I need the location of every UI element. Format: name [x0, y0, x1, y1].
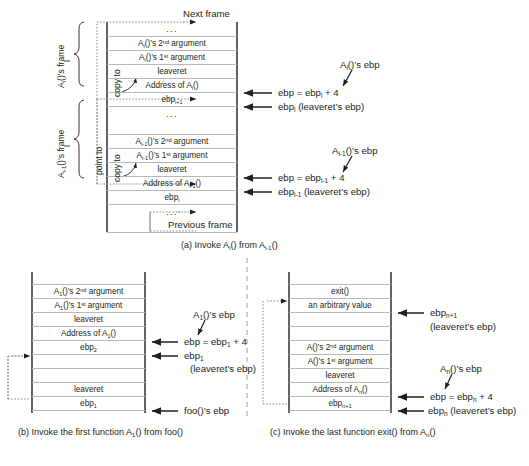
panel-b-pointer-arrows: [152, 342, 178, 411]
panel-a-upper-pointer-arrows: [244, 93, 272, 107]
stack-row: A()’s 1st argument: [289, 354, 391, 369]
stack-row: Address of An(): [289, 382, 391, 397]
stack-row: [32, 410, 145, 425]
panel-c-pointer-arrows: [398, 313, 424, 411]
stack-row: ...: [107, 106, 237, 121]
stack-row: [289, 326, 391, 341]
panel-c-arrow-top-sub-label: (leaveret’s ebp): [430, 322, 496, 332]
frame-brace-lower: [74, 100, 84, 178]
panel-c-arrow2-label: ebpn (leaveret’s ebp): [428, 406, 516, 416]
panel-c-callout-arrow: [445, 374, 452, 389]
stack-row: [289, 312, 391, 327]
panel-c-callout: An()’s ebp: [440, 364, 482, 374]
panel-a-lower-callout-arrow: [343, 156, 352, 172]
panel-c-arrow-top-label: ebpn+1: [430, 308, 457, 318]
panel-a-lower-arrow2-label: ebpi-1 (leaveret’s ebp): [278, 187, 370, 197]
panel-b-loop-connector: [8, 356, 30, 399]
panel-a-caption: (a) Invoke Ai() from Ai-1(): [181, 240, 278, 250]
stack-row: Address of Ai-1(): [107, 176, 237, 191]
panel-b-callout: A1()’s ebp: [193, 310, 235, 320]
copy-to-label-lower: copy to: [112, 154, 122, 182]
panel-a-lower-callout: Ai-1()’s ebp: [332, 146, 377, 156]
stack-row: Address of Ai(): [107, 78, 237, 93]
panel-a-upper-arrow2-label: ebpi (leaveret’s ebp): [278, 102, 364, 112]
panel-a-upper-callout-arrow: [343, 70, 352, 86]
stack-frame-diagram: Next frame ... Ai()’s 2nd argument Ai()’…: [0, 0, 529, 466]
stack-row: Ai()’s 1st argument: [107, 50, 237, 65]
stack-row: Ai-1()’s 1st argument: [107, 148, 237, 163]
stack-row: ebp1: [32, 396, 145, 411]
panel-b-stack-rows: A1()’s 2nd argument A1()’s 1st argument …: [32, 272, 145, 413]
panel-b-arrow2-sub-label: (leaveret’s ebp): [190, 364, 256, 374]
stack-row: A()’s 2nd argument: [289, 340, 391, 355]
panel-b-arrow3-label: foo()’s ebp: [184, 406, 229, 416]
stack-row: exit(): [289, 284, 391, 299]
stack-row: ebpi+1: [107, 92, 237, 107]
stack-row: Ai-1()’s 2nd argument: [107, 134, 237, 149]
panel-b-arrow2-label: ebp1: [184, 351, 204, 361]
frame-brace-upper: [74, 22, 84, 86]
panel-a-next-frame-label: Next frame: [183, 9, 230, 19]
stack-row: leaveret: [289, 368, 391, 383]
stack-row: ebp2: [32, 340, 145, 355]
copy-to-label-upper: copy to: [112, 69, 122, 97]
panel-b-callout-arrow: [198, 320, 205, 335]
stack-row: leaveret: [32, 312, 145, 327]
panel-c-loop-connector: [263, 301, 287, 404]
stack-row: [32, 368, 145, 383]
stack-row: ebpi: [107, 190, 237, 205]
frame-label-lower: Ai-1()’s frame: [56, 130, 66, 178]
stack-row: [107, 120, 237, 134]
panel-a-upper-callout: Ai()’s ebp: [340, 60, 380, 70]
panel-c-caption: (c) Invoke the last function exit() from…: [270, 427, 435, 437]
stack-row: Ai()’s 2nd argument: [107, 36, 237, 51]
panel-c-arrow1-label: ebp = ebpn + 4: [430, 392, 493, 402]
frame-label-upper: Ai()’s frame: [56, 45, 66, 88]
stack-row: leaveret: [107, 64, 237, 79]
panel-a-lower-arrow1-label: ebp = ebpi-1 + 4: [278, 173, 344, 183]
panel-a-previous-frame-label: Previous frame: [168, 220, 233, 230]
stack-row: Address of A1(): [32, 326, 145, 341]
panel-b-arrow1-label: ebp = ebp1 + 4: [184, 337, 247, 347]
panel-a-lower-pointer-arrows: [244, 178, 272, 192]
point-to-label: point to: [94, 147, 104, 175]
panel-a-stack-rows: ... Ai()’s 2nd argument Ai()’s 1st argum…: [107, 22, 237, 232]
stack-row: leaveret: [107, 162, 237, 177]
stack-row: leaveret: [32, 382, 145, 397]
stack-row: ...: [107, 22, 237, 36]
stack-row: A1()’s 1st argument: [32, 298, 145, 313]
stack-row: ebpn+1: [289, 396, 391, 411]
panel-c-stack-rows: exit() an arbitrary value A()’s 2nd argu…: [289, 272, 391, 413]
stack-row: [289, 410, 391, 425]
stack-row: A1()’s 2nd argument: [32, 284, 145, 299]
stack-row: [32, 354, 145, 369]
panel-a-upper-arrow1-label: ebp = ebpi + 4: [278, 88, 339, 98]
stack-row: an arbitrary value: [289, 298, 391, 313]
panel-b-caption: (b) Invoke the first function A1() from …: [18, 427, 183, 437]
stack-row: ...: [107, 204, 237, 219]
